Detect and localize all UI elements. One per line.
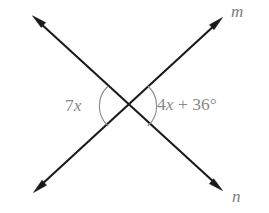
angle-label-right: 4x + 36° xyxy=(157,96,217,114)
angle-right-coefficient: 4 xyxy=(157,94,166,114)
diagram-canvas xyxy=(0,0,269,213)
angle-label-left: 7x xyxy=(65,97,82,115)
angle-left-arc xyxy=(99,86,108,126)
geometry-figure: m n 7x 4x + 36° xyxy=(0,0,269,213)
angle-right-constant-term: + 36° xyxy=(174,94,217,114)
angle-left-coefficient: 7 xyxy=(65,95,74,115)
line-label-m: m xyxy=(231,3,244,20)
angle-right-arc xyxy=(148,86,157,126)
line-label-n: n xyxy=(232,188,241,205)
angle-left-variable: x xyxy=(74,95,82,115)
angle-right-variable: x xyxy=(166,94,174,114)
